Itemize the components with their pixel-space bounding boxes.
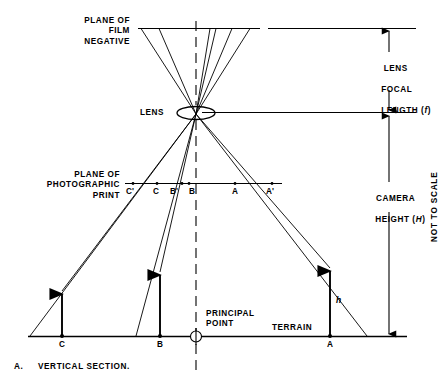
print-point-label-A-prime: A': [266, 187, 274, 196]
lens-label: LENS: [140, 108, 164, 118]
ray-lens-to-film-B: [196, 29, 210, 115]
terrain-point-marker-A: [328, 334, 332, 338]
terrain-label: TERRAIN: [272, 323, 312, 333]
terrain-point-marker-C: [60, 334, 64, 338]
focal-length-line-1: LENS: [384, 64, 408, 73]
principal-point-label: PRINCIPAL POINT: [206, 309, 254, 330]
print-point-label-B: B: [189, 187, 195, 196]
camera-height-label: CAMERA HEIGHT (H): [364, 184, 416, 236]
camera-height-line-2: HEIGHT (: [375, 215, 415, 224]
figure-caption-text: VERTICAL SECTION.: [38, 362, 130, 371]
ray-A-tip-to-lens: [196, 114, 330, 268]
print-point-marker-Bprime: [181, 182, 184, 185]
print-point-marker-Cprime: [132, 182, 135, 185]
focal-length-line-2: FOCAL: [381, 85, 412, 94]
ray-A-base-to-lens: [196, 114, 367, 336]
print-point-marker-A: [234, 182, 237, 185]
print-point-label-C-prime: C': [126, 187, 134, 196]
not-to-scale-note: NOT TO SCALE: [430, 172, 439, 242]
ray-lens-to-film-Aprime: [141, 29, 196, 115]
focal-length-line-3: LENGTH (: [381, 106, 424, 115]
ray-B-base-to-lens: [136, 114, 196, 336]
camera-height-close-paren: ): [422, 215, 425, 224]
film-negative-plane-label: PLANE OF FILM NEGATIVE: [52, 16, 130, 47]
terrain-point-label-C: C: [59, 340, 65, 349]
terrain-point-label-B: B: [157, 340, 163, 349]
terrain-point-marker-B: [158, 334, 162, 338]
camera-height-line-1: CAMERA: [376, 194, 415, 203]
ray-lens-to-film-Cprime: [196, 29, 250, 115]
object-height-label-h: h: [336, 295, 341, 305]
ray-lens-to-film-C: [196, 29, 232, 115]
print-point-label-C: C: [153, 187, 159, 196]
figure-caption-letter: A.: [14, 362, 23, 371]
ray-lens-to-film-A: [159, 29, 196, 115]
ray-lens-to-film-Bprime: [196, 29, 216, 115]
photographic-print-plane-label: PLANE OF PHOTOGRAPHIC PRINT: [28, 170, 120, 201]
print-point-marker-B: [188, 182, 191, 185]
photogrammetry-vertical-section-diagram: PLANE OF FILM NEGATIVE LENS PLANE OF PHO…: [0, 0, 445, 391]
print-point-marker-C: [156, 182, 159, 185]
print-point-marker-Aprime: [271, 182, 274, 185]
print-point-label-B-prime: B': [170, 187, 178, 196]
print-point-label-A: A: [232, 187, 238, 196]
terrain-point-label-A: A: [327, 340, 333, 349]
focal-length-close-paren: ): [428, 106, 431, 115]
lens-focal-length-label: LENS FOCAL LENGTH (f): [370, 54, 410, 127]
